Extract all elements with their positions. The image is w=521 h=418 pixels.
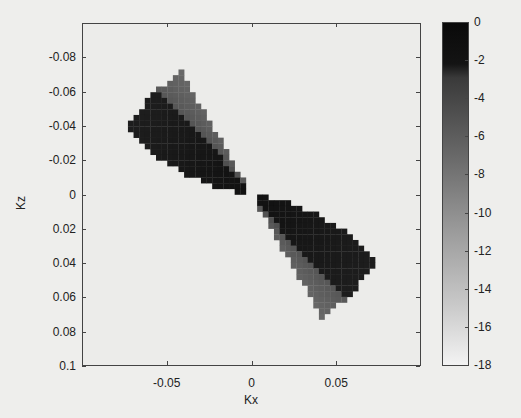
y-tick	[82, 332, 86, 333]
colorbar-tick	[465, 22, 469, 23]
y-tick-label: -0.04	[32, 119, 76, 133]
y-tick	[82, 366, 86, 367]
y-tick	[416, 366, 420, 367]
colorbar-tick-label: 0	[474, 15, 481, 29]
y-tick-label: -0.02	[32, 153, 76, 167]
x-tick	[252, 23, 253, 27]
y-tick	[416, 195, 420, 196]
colorbar-tick-label: -8	[474, 167, 485, 181]
colorbar-tick-label: -10	[474, 206, 491, 220]
x-tick	[252, 361, 253, 365]
y-tick	[82, 195, 86, 196]
colorbar-tick-label: -2	[474, 53, 485, 67]
y-tick-label: 0.1	[32, 359, 76, 373]
colorbar-tick-label: -4	[474, 91, 485, 105]
x-tick-label: 0.05	[311, 376, 361, 390]
colorbar-tick	[465, 136, 469, 137]
colorbar-tick-label: -14	[474, 282, 491, 296]
y-tick	[416, 297, 420, 298]
colorbar	[442, 22, 469, 366]
y-tick-label: 0.04	[32, 256, 76, 270]
y-tick-label: 0.02	[32, 222, 76, 236]
colorbar-tick-label: -18	[474, 358, 491, 372]
y-tick	[416, 332, 420, 333]
y-tick-label: 0	[32, 188, 76, 202]
colorbar-tick	[465, 289, 469, 290]
y-tick	[82, 126, 86, 127]
y-tick	[416, 92, 420, 93]
y-tick	[82, 263, 86, 264]
y-tick	[82, 229, 86, 230]
colorbar-tick	[465, 98, 469, 99]
y-tick	[416, 263, 420, 264]
colorbar-tick	[465, 60, 469, 61]
x-axis-label: Kx	[244, 393, 258, 407]
y-tick-label: 0.06	[32, 290, 76, 304]
y-tick	[416, 229, 420, 230]
colorbar-tick	[465, 174, 469, 175]
y-tick-label: -0.08	[32, 50, 76, 64]
x-tick	[167, 361, 168, 365]
y-tick	[82, 57, 86, 58]
colorbar-tick	[465, 213, 469, 214]
heatmap-plot-area	[82, 23, 421, 366]
colorbar-tick	[465, 365, 469, 366]
colorbar-tick-label: -12	[474, 244, 491, 258]
y-tick	[416, 57, 420, 58]
x-tick	[336, 23, 337, 27]
x-tick-label: 0	[227, 376, 277, 390]
heatmap-cells	[83, 24, 420, 365]
colorbar-tick-label: -6	[474, 129, 485, 143]
y-tick-label: -0.06	[32, 85, 76, 99]
colorbar-tick	[465, 327, 469, 328]
colorbar-tick-label: -16	[474, 320, 491, 334]
y-tick	[416, 160, 420, 161]
y-tick	[416, 126, 420, 127]
y-axis-label: Kz	[14, 196, 28, 210]
x-tick	[336, 361, 337, 365]
y-tick	[82, 297, 86, 298]
y-tick-label: 0.08	[32, 325, 76, 339]
x-tick-label: -0.05	[142, 376, 192, 390]
y-tick	[82, 92, 86, 93]
x-tick	[167, 23, 168, 27]
colorbar-tick	[465, 251, 469, 252]
y-tick	[82, 160, 86, 161]
